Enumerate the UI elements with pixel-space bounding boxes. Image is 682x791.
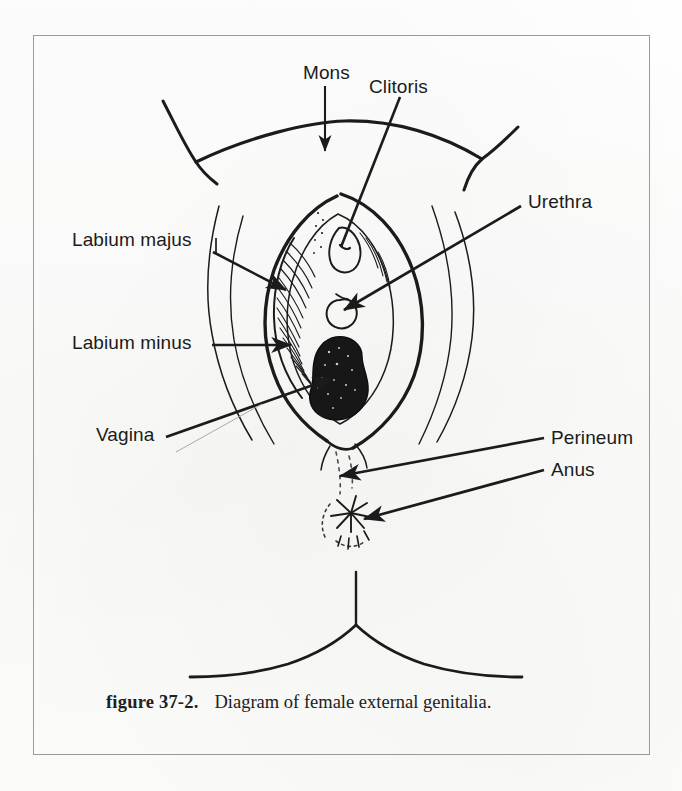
label-labium-minus: Labium minus: [72, 332, 191, 354]
label-perineum: Perineum: [551, 427, 633, 449]
label-labium-majus: Labium majus: [72, 229, 191, 251]
anal-folds: [338, 531, 369, 549]
fourchette: [327, 441, 353, 449]
caption-text: Diagram of female external genitalia.: [215, 692, 492, 712]
figure-caption: figure 37-2.Diagram of female external g…: [106, 692, 606, 713]
anatomical-diagram: [0, 0, 682, 791]
label-anus: Anus: [551, 459, 595, 481]
vaginal-opening: [310, 337, 368, 420]
label-mons: Mons: [303, 62, 350, 84]
label-vagina: Vagina: [96, 424, 154, 446]
mons-pubis-curve: [196, 121, 482, 162]
leader-urethra: [344, 206, 521, 310]
leader-perineum: [340, 438, 544, 476]
hood-stipple: [313, 212, 324, 254]
left-groin-crease: [163, 101, 217, 184]
gluteal-cleft-right: [356, 625, 522, 677]
anus-star: [331, 496, 370, 532]
leader-anus: [364, 470, 544, 519]
label-clitoris: Clitoris: [369, 76, 428, 98]
caption-number: figure 37-2.: [106, 692, 199, 712]
figure-page: Mons Clitoris Urethra Labium majus Labiu…: [0, 0, 682, 791]
right-vestibule-shading: [360, 233, 390, 287]
label-urethra: Urethra: [528, 191, 592, 213]
gluteal-cleft-left: [190, 625, 356, 677]
perineal-folds: [321, 444, 367, 470]
urethra-tail: [336, 294, 348, 299]
right-thigh: [437, 212, 474, 442]
left-thigh: [208, 206, 252, 440]
right-groin-crease: [464, 127, 518, 190]
